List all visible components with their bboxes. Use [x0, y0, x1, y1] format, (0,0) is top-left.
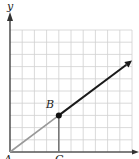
- ray-from-B: [59, 65, 127, 116]
- point-label-c: C: [55, 153, 64, 159]
- point-label-a: A: [3, 153, 12, 159]
- point-b-dot: [56, 112, 62, 118]
- y-axis-arrow-icon: [7, 12, 13, 21]
- grid-lines: [10, 30, 132, 152]
- x-axis-arrow-icon: [132, 150, 139, 155]
- axes: y: [6, 0, 139, 155]
- coordinate-diagram: y A B C: [0, 0, 139, 159]
- point-label-b: B: [45, 98, 54, 111]
- y-axis-label: y: [6, 0, 14, 13]
